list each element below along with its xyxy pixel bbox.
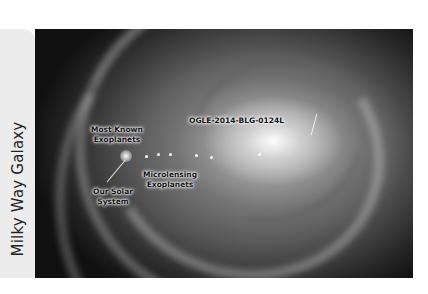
label-microlensing-exoplanets: Microlensing Exoplanets bbox=[143, 170, 197, 190]
solar-system-marker bbox=[120, 150, 132, 162]
label-line: Exoplanets bbox=[143, 180, 197, 190]
microlensing-dot bbox=[258, 153, 261, 156]
microlensing-dot bbox=[169, 153, 172, 156]
label-line: Exoplanets bbox=[91, 135, 143, 145]
label-most-known-exoplanets: Most Known Exoplanets bbox=[91, 125, 143, 145]
microlensing-dot bbox=[157, 153, 160, 156]
label-our-solar-system: Our Solar System bbox=[93, 187, 133, 207]
microlensing-dot bbox=[195, 154, 198, 157]
label-line: Most Known bbox=[91, 125, 143, 135]
milky-way-galaxy-image: Most Known Exoplanets OGLE-2014-BLG-0124… bbox=[35, 29, 413, 278]
microlensing-dot bbox=[210, 156, 213, 159]
label-line: OGLE-2014-BLG-0124L bbox=[189, 116, 284, 126]
label-line: Microlensing bbox=[143, 170, 197, 180]
label-line: Our Solar bbox=[93, 187, 133, 197]
label-line: System bbox=[93, 197, 133, 207]
sidebar-title: Milky Way Galaxy bbox=[9, 122, 27, 257]
sidebar-tab: Milky Way Galaxy bbox=[0, 29, 36, 278]
microlensing-dot bbox=[145, 155, 148, 158]
label-ogle: OGLE-2014-BLG-0124L bbox=[189, 116, 284, 126]
